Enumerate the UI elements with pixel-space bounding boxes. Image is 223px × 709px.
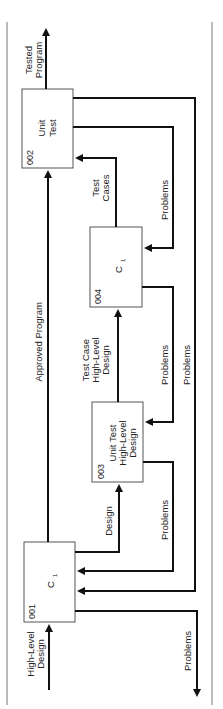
box-004-label: C xyxy=(113,266,124,273)
box-004-c1: 004 C 1 xyxy=(90,227,142,307)
svg-text:Cases: Cases xyxy=(100,174,111,201)
arrow-problems-004-to-003: Problems xyxy=(142,287,173,422)
arrow-test-cases: Test Cases xyxy=(77,158,116,227)
svg-text:Problems: Problems xyxy=(159,345,170,385)
box-003-id: 003 xyxy=(96,464,106,479)
box-002-label-line-1: Unit xyxy=(36,119,47,136)
arrow-approved-program: Approved Program xyxy=(33,172,48,542)
arrow-tested-program: Tested Program xyxy=(23,30,46,89)
svg-text:Design: Design xyxy=(35,639,46,669)
arrow-high-level-design: High-Level Design xyxy=(25,626,49,690)
box-002-unit-test: 002 Unit Test xyxy=(22,89,73,168)
box-004-id: 004 xyxy=(93,289,103,304)
box-003-unit-test-hld: 003 Unit Test High-Level Design xyxy=(92,402,143,482)
svg-text:Design: Design xyxy=(103,506,114,536)
box-001-label: C xyxy=(45,581,56,588)
arrow-test-case-hld: Test Case High-Level Design xyxy=(80,311,118,402)
svg-text:Program: Program xyxy=(33,42,44,79)
box-001-id: 001 xyxy=(27,604,37,619)
arrow-design: Design xyxy=(75,486,119,552)
svg-text:Problems: Problems xyxy=(159,500,170,540)
arrow-problems-out: Problems xyxy=(75,611,197,695)
box-002-id: 002 xyxy=(25,150,35,165)
svg-text:Approved Program: Approved Program xyxy=(33,302,44,382)
box-002-label-line-2: Test xyxy=(47,119,58,137)
svg-text:Problems: Problems xyxy=(182,631,193,671)
svg-text:Problems: Problems xyxy=(159,180,170,220)
svg-text:Problems: Problems xyxy=(181,345,192,385)
svg-text:Design: Design xyxy=(100,345,111,375)
process-diagram: 002 Unit Test 004 C 1 003 Unit Test High… xyxy=(0,0,223,709)
box-003-label-line-3: Design xyxy=(127,428,138,458)
box-001-c1: 001 C 1 xyxy=(24,542,75,622)
